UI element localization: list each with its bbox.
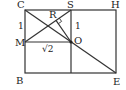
label-length-MO: √2 — [42, 44, 53, 54]
label-M: M — [15, 37, 25, 48]
label-B: B — [16, 75, 23, 86]
segment-RO — [56, 20, 71, 42]
label-S: S — [67, 0, 74, 10]
label-length-CM: 1 — [18, 21, 24, 31]
label-E: E — [113, 76, 120, 87]
label-H: H — [111, 0, 120, 10]
label-length-SO: 1 — [75, 21, 81, 31]
label-R: R — [49, 9, 57, 20]
label-C: C — [17, 0, 25, 10]
geometry-diagram: C S H R M O B E 1 1 √2 — [0, 0, 126, 90]
point-O-dot — [69, 40, 72, 43]
label-O: O — [74, 35, 82, 46]
